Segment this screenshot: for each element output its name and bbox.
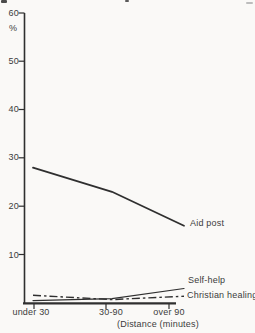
x-tick-label: 30-90 [83,307,139,317]
series-label-christian-healing: Christian healing [187,290,255,300]
y-tick-label: 50 [0,56,19,66]
series-label-self-help: Self-help [188,275,225,285]
y-tick-label: 20 [0,201,19,211]
line-self-help [33,289,184,301]
x-axis-title: (Distance (minutes) [99,319,217,329]
line-chart-figure: 60 50 40 30 20 10 % under 30 30-90 over … [0,0,255,333]
y-tick-label: 40 [0,104,19,114]
x-tick-label: under 30 [2,307,60,317]
y-tick-marks [19,13,25,255]
y-tick-label: 60 [0,8,19,18]
y-tick-label: 30 [0,152,19,162]
line-aid-post [33,168,184,226]
x-tick-label: over 90 [141,307,197,317]
y-axis-unit-label: % [7,23,19,33]
series-label-aid-post: Aid post [190,218,224,228]
y-tick-label: 10 [0,250,19,260]
